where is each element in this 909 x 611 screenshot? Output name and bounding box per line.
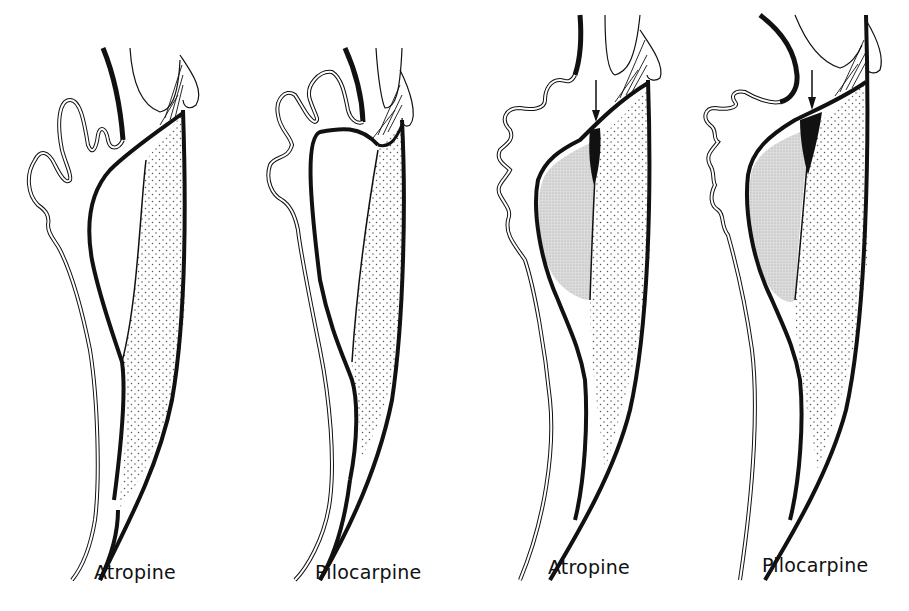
- eye-anatomy-figure: Atropine Pilocarpine Atropine Pilocarpin…: [0, 0, 909, 611]
- panel-2-pilocarpine: [268, 48, 413, 580]
- panel-4-label: Pilocarpine: [762, 554, 868, 576]
- arrow-icon: [808, 70, 816, 110]
- sclera-region: [352, 125, 404, 460]
- arrow-icon: [592, 80, 600, 122]
- panel-3-label: Atropine: [548, 556, 630, 578]
- panel-2-label: Pilocarpine: [315, 561, 421, 583]
- panel-3-atropine: [499, 15, 661, 580]
- diagram-canvas: [0, 0, 909, 611]
- panel-1-label: Atropine: [94, 561, 176, 583]
- sclera-region: [118, 113, 185, 510]
- panel-4-pilocarpine: [705, 15, 881, 580]
- panel-1-atropine: [29, 48, 199, 580]
